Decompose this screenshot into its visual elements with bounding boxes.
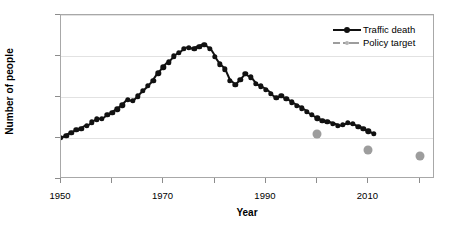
data-point — [99, 116, 104, 121]
x-tick-mark — [265, 178, 266, 183]
data-point — [176, 50, 181, 55]
x-tick-label: 1950 — [49, 190, 70, 201]
target-data-point — [313, 129, 322, 138]
data-point — [145, 83, 150, 88]
data-point — [156, 71, 161, 76]
grid-line — [61, 15, 433, 16]
x-tick-mark — [419, 178, 420, 183]
x-axis-title-text: Year — [236, 207, 257, 218]
x-tick-mark — [367, 178, 368, 183]
x-tick-label: 1970 — [152, 190, 173, 201]
data-point — [130, 98, 135, 103]
x-tick-label: 2010 — [357, 190, 378, 201]
x-tick-mark — [162, 178, 163, 183]
data-point — [238, 77, 243, 82]
y-axis-title: Number of people — [0, 0, 18, 182]
x-tick-mark — [316, 178, 317, 183]
legend-label-traffic-death: Traffic death — [362, 24, 415, 35]
grid-line — [61, 138, 433, 139]
legend-item-policy-target: Policy target — [332, 36, 434, 49]
chart-legend: Traffic death Policy target — [330, 20, 434, 52]
x-tick-mark — [111, 178, 112, 183]
plot-area: Traffic death Policy target — [60, 14, 434, 178]
x-tick-mark — [60, 178, 61, 183]
data-point — [161, 65, 166, 70]
data-point — [120, 102, 125, 107]
x-axis-title: Year — [60, 207, 434, 218]
data-point — [84, 123, 89, 128]
x-tick-mark — [214, 178, 215, 183]
data-point — [110, 110, 115, 115]
data-point — [371, 131, 376, 136]
grid-line — [61, 97, 433, 98]
legend-label-policy-target: Policy target — [362, 37, 415, 48]
legend-item-traffic-death: Traffic death — [332, 23, 434, 36]
data-point — [166, 59, 171, 64]
grid-line — [61, 56, 433, 57]
legend-swatch-policy-target-icon — [332, 37, 362, 48]
data-point — [89, 120, 94, 125]
legend-swatch-traffic-death-icon — [332, 24, 362, 35]
target-data-point — [415, 152, 424, 161]
target-data-point — [364, 146, 373, 155]
data-point — [69, 130, 74, 135]
data-point — [151, 78, 156, 83]
data-point — [135, 93, 140, 98]
data-point — [171, 54, 176, 59]
y-axis-title-text: Number of people — [4, 48, 15, 135]
data-point — [232, 82, 237, 87]
data-point — [140, 88, 145, 93]
data-point — [115, 107, 120, 112]
chart-figure: Number of people 40003000200010000 19501… — [0, 0, 450, 235]
x-tick-label: 1990 — [254, 190, 275, 201]
